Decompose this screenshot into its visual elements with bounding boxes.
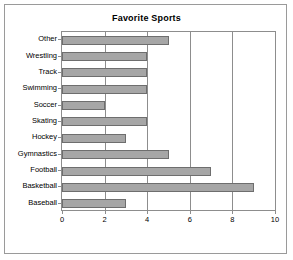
bar-football (62, 167, 211, 176)
x-axis-label-4: 4 (137, 215, 157, 224)
y-axis-label-skating: Skating (5, 117, 57, 125)
x-axis-label-0: 0 (52, 215, 72, 224)
x-axis-label-8: 8 (222, 215, 242, 224)
bar-row (62, 196, 275, 212)
y-axis-label-football: Football (5, 166, 57, 174)
bar-row (62, 97, 275, 113)
bar-hockey (62, 134, 126, 143)
y-axis-label-swimming: Swimming (5, 84, 57, 92)
bar-soccer (62, 101, 105, 110)
chart-frame: Favorite Sports BaseballBasketballFootba… (4, 4, 287, 254)
x-axis-tick (190, 210, 191, 214)
bar-row (62, 48, 275, 64)
y-axis-label-basketball: Basketball (5, 182, 57, 190)
bar-row (62, 130, 275, 146)
x-axis-labels: 0246810 (5, 215, 288, 229)
x-axis-tick (147, 210, 148, 214)
y-axis-label-track: Track (5, 68, 57, 76)
x-axis-tick (232, 210, 233, 214)
x-axis-label-2: 2 (95, 215, 115, 224)
x-axis-label-10: 10 (265, 215, 285, 224)
bar-row (62, 32, 275, 48)
bar-series (62, 32, 275, 210)
bar-track (62, 68, 147, 77)
y-axis-label-wrestling: Wrestling (5, 52, 57, 60)
bar-row (62, 163, 275, 179)
gridline-10 (275, 32, 276, 210)
y-axis-label-hockey: Hockey (5, 133, 57, 141)
bar-row (62, 81, 275, 97)
x-axis-tick (275, 210, 276, 214)
bar-other (62, 36, 169, 45)
x-axis-tick (62, 210, 63, 214)
y-axis-label-other: Other (5, 35, 57, 43)
bar-wrestling (62, 52, 147, 61)
y-axis-label-soccer: Soccer (5, 101, 57, 109)
bar-row (62, 179, 275, 195)
bar-skating (62, 117, 147, 126)
y-axis-labels: BaseballBasketballFootballGymnasticsHock… (5, 31, 57, 211)
y-axis-label-gymnastics: Gymnastics (5, 150, 57, 158)
bar-swimming (62, 85, 147, 94)
bar-row (62, 147, 275, 163)
bar-basketball (62, 183, 254, 192)
bar-baseball (62, 199, 126, 208)
y-axis-label-baseball: Baseball (5, 199, 57, 207)
bar-row (62, 65, 275, 81)
x-axis-tick (105, 210, 106, 214)
bar-row (62, 114, 275, 130)
chart-title: Favorite Sports (5, 13, 288, 23)
bar-gymnastics (62, 150, 169, 159)
x-axis-label-6: 6 (180, 215, 200, 224)
plot-area (61, 31, 276, 211)
